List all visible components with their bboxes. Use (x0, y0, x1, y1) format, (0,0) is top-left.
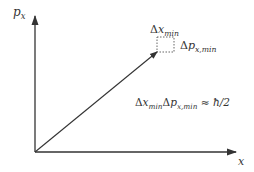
x-axis-label: x (238, 156, 244, 167)
delta-x-min-label: Δxmin (150, 24, 179, 37)
minimum-uncertainty-cell (157, 37, 174, 52)
y-axis-label: px (13, 6, 25, 20)
uncertainty-equation: ΔxminΔpx,min ≈ ħ/2 (135, 97, 230, 110)
delta-px-min-label: Δpx,min (180, 40, 216, 53)
phase-space-diagram (0, 0, 254, 172)
